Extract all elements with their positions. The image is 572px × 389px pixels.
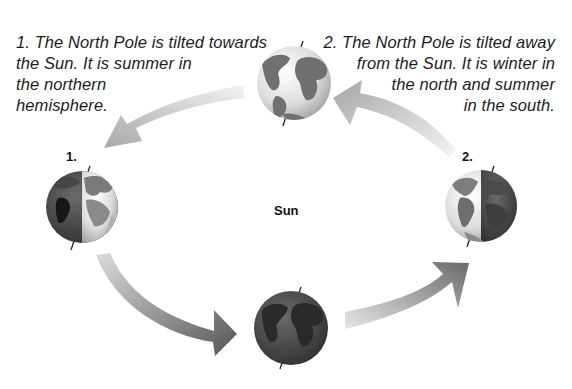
caption-1-line: the Sun. It is summer in [16,53,267,74]
earth-position-2-globe [445,166,517,247]
caption-1-line: hemisphere. [16,95,267,116]
caption-2-line: the north and summer [323,74,555,95]
earth-top-globe [257,41,331,126]
earth-position-1-globe [46,166,118,250]
position-1-label: 1. [66,149,77,164]
caption-1-line: the northern [16,74,267,95]
earth-bottom-globe [254,287,328,369]
caption-2-line: in the south. [323,95,555,116]
caption-position-2: 2. The North Pole is tilted away from th… [323,32,555,116]
caption-1-line: 1. The North Pole is tilted towards [16,32,267,53]
caption-2-line: 2. The North Pole is tilted away [323,32,555,53]
caption-2-line: from the Sun. It is winter in [323,53,555,74]
position-2-label: 2. [462,149,473,164]
orbit-arrow-bottom-to-2 [345,262,469,329]
sun-label: Sun [274,203,299,218]
orbit-arrow-1-to-bottom [96,253,237,356]
caption-position-1: 1. The North Pole is tilted towards the … [16,32,267,116]
